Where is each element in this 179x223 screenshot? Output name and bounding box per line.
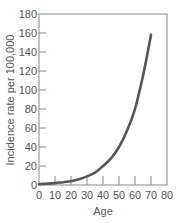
plot-frame — [39, 14, 167, 185]
x-axis-title: Age — [93, 205, 113, 217]
y-tick-label: 160 — [19, 27, 37, 39]
x-axis-ticks: 01020304050607080 — [36, 176, 173, 201]
y-axis-ticks: 020406080100120140160180 — [19, 8, 46, 191]
x-tick-label: 50 — [113, 189, 125, 201]
y-tick-label: 100 — [19, 84, 37, 96]
incidence-line-chart: 020406080100120140160180 010203040506070… — [0, 0, 179, 223]
x-tick-label: 80 — [161, 189, 173, 201]
y-tick-label: 20 — [25, 160, 37, 172]
x-tick-label: 0 — [36, 189, 42, 201]
y-tick-label: 120 — [19, 65, 37, 77]
y-tick-label: 80 — [25, 103, 37, 115]
y-axis-title: Incidence rate per 100,000 — [4, 35, 16, 166]
incidence-curve — [39, 35, 151, 184]
y-tick-label: 40 — [25, 141, 37, 153]
x-tick-label: 60 — [129, 189, 141, 201]
x-tick-label: 30 — [81, 189, 93, 201]
y-tick-label: 60 — [25, 122, 37, 134]
y-tick-label: 140 — [19, 46, 37, 58]
x-tick-label: 20 — [65, 189, 77, 201]
y-tick-label: 180 — [19, 8, 37, 20]
x-tick-label: 70 — [145, 189, 157, 201]
x-tick-label: 10 — [49, 189, 61, 201]
x-tick-label: 40 — [97, 189, 109, 201]
